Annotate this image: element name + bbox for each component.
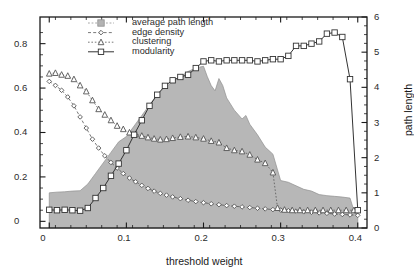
y-right-tick-label: 2 bbox=[374, 152, 379, 163]
y-right-tick-label: 0 bbox=[374, 222, 379, 233]
x-tick-label: 0 bbox=[40, 232, 45, 243]
y-tick-label: 0.2 bbox=[14, 171, 27, 182]
y-right-tick-label: 6 bbox=[374, 11, 379, 22]
y-right-tick-label: 5 bbox=[374, 46, 379, 57]
x-tick-label: 0.1 bbox=[117, 232, 130, 243]
y-tick-label: 0.6 bbox=[14, 82, 27, 93]
x-tick-label: 0.4 bbox=[349, 232, 362, 243]
x-axis-title: threshold weight bbox=[166, 255, 242, 267]
legend-label-clustering: clustering bbox=[132, 36, 171, 46]
y-right-tick-label: 3 bbox=[374, 117, 379, 128]
legend-label-modularity: modularity bbox=[132, 46, 174, 56]
y-tick-label: 0.4 bbox=[14, 126, 27, 137]
y-tick-label: 0.8 bbox=[14, 38, 27, 49]
legend-label-edge-density: edge density bbox=[132, 27, 184, 37]
y-axis-right-title: path length bbox=[402, 84, 414, 136]
legend-markers bbox=[88, 20, 114, 55]
x-tick-label: 0.3 bbox=[272, 232, 285, 243]
y-right-tick-label: 1 bbox=[374, 187, 379, 198]
legend-label-average-path-length: average path length bbox=[132, 17, 213, 27]
y-tick-label: 0 bbox=[14, 215, 19, 226]
y-right-tick-label: 4 bbox=[374, 81, 379, 92]
x-tick-label: 0.2 bbox=[195, 232, 208, 243]
